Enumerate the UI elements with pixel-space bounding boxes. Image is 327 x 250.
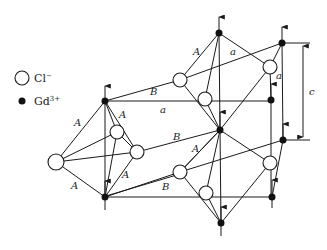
label-A: A — [121, 169, 129, 180]
gd-ion — [279, 40, 286, 47]
legend-gd-icon — [19, 98, 26, 105]
gd-ion — [280, 137, 287, 144]
cl-ion — [48, 154, 64, 170]
cl-ion — [263, 156, 277, 170]
label-A: A — [192, 46, 200, 57]
cl-ion — [198, 92, 212, 106]
label-B: B — [172, 131, 180, 142]
gd-ion — [102, 194, 109, 201]
label-A: A — [70, 180, 78, 191]
label-B: B — [161, 181, 169, 192]
label-a: a — [160, 104, 166, 115]
label-B: B — [149, 86, 157, 97]
cl-ion — [263, 60, 277, 74]
label-c: c — [309, 86, 315, 97]
legend: Cl− Gd3+ — [15, 71, 60, 108]
gd-ion — [216, 30, 223, 37]
label-a: a — [276, 70, 282, 81]
gd-ion — [269, 194, 276, 201]
label-a: a — [230, 46, 236, 57]
gd-ion — [102, 98, 109, 105]
cl-ion — [110, 125, 124, 139]
legend-gd-label: Gd3+ — [34, 95, 60, 108]
cl-ion — [173, 165, 187, 179]
legend-cl-label: Cl− — [34, 72, 52, 85]
axis-arrows — [105, 17, 303, 236]
label-A: A — [191, 143, 199, 154]
label-A: A — [73, 117, 81, 128]
cl-ion — [173, 73, 187, 87]
legend-cl-icon — [15, 71, 29, 85]
crystal-structure-diagram: Cl− Gd3+ — [0, 0, 327, 250]
cl-ion — [130, 145, 144, 159]
edge-labels: A a a A A B a B A A A B c — [70, 46, 315, 192]
cl-ion — [199, 186, 213, 200]
label-A: A — [118, 109, 126, 120]
gd-ion — [268, 97, 275, 104]
gd-ion — [217, 127, 224, 134]
gd-ion — [218, 220, 225, 227]
